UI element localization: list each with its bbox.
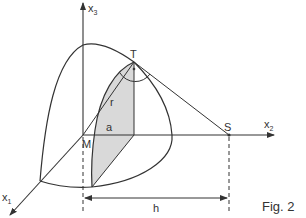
point-M-label: M (82, 138, 91, 150)
point-T-label: T (130, 48, 137, 60)
figure-caption: Fig. 2 (262, 199, 295, 214)
right-angle-dot (133, 68, 135, 70)
x1-axis (10, 135, 83, 215)
point-S-label: S (224, 121, 231, 133)
sphere-tangent-diagram: x3 x2 x1 T S M r a h Fig. 2 (0, 0, 306, 218)
x3-axis-label: x3 (88, 2, 98, 16)
x2-axis-label: x2 (264, 118, 274, 132)
cross-section-a-label: a (106, 121, 113, 133)
tangent-line-TS (134, 62, 229, 135)
point-S-marker (227, 133, 230, 136)
distance-h-label: h (153, 202, 159, 214)
radius-r-label: r (110, 96, 114, 108)
x1-axis-label: x1 (2, 191, 12, 205)
